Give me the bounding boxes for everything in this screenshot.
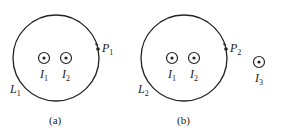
current-i2-dot-icon (64, 56, 67, 59)
loop-l2 (141, 15, 227, 101)
current-i2-dot-icon (192, 56, 195, 59)
svg-text:P2: P2 (229, 41, 241, 57)
svg-text:L2: L2 (137, 82, 149, 98)
magnetic-loop-diagram: P1 I1 I2 L1 (a) P2 I1 I2 I3 L2 (b) (0, 0, 286, 140)
current-i1-dot-icon (170, 56, 173, 59)
svg-text:I3: I3 (254, 71, 263, 87)
current-i1-dot-icon (42, 56, 45, 59)
l2-sub: 2 (145, 89, 149, 98)
svg-text:I2: I2 (61, 67, 70, 83)
figure-a: P1 I1 I2 L1 (a) (9, 15, 113, 127)
svg-text:I2: I2 (189, 67, 198, 83)
caption-a: (a) (49, 114, 62, 127)
point-p2-marker (224, 47, 228, 51)
svg-text:I1: I1 (39, 67, 48, 83)
svg-text:P1: P1 (101, 41, 113, 57)
figure-b: P2 I1 I2 I3 L2 (b) (137, 15, 265, 127)
point-p1-marker (96, 47, 100, 51)
p1-sub: 1 (109, 48, 113, 57)
l1-sub: 1 (17, 89, 21, 98)
current-i3-dot-icon (257, 60, 260, 63)
caption-b: (b) (177, 114, 190, 127)
svg-text:L1: L1 (9, 82, 21, 98)
p2-sub: 2 (237, 48, 241, 57)
i3-sub: 3 (259, 78, 263, 87)
i1-sub: 1 (172, 74, 176, 83)
svg-text:I1: I1 (167, 67, 176, 83)
i2-sub: 2 (194, 74, 198, 83)
loop-l1 (13, 15, 99, 101)
i1-sub: 1 (44, 74, 48, 83)
i2-sub: 2 (66, 74, 70, 83)
